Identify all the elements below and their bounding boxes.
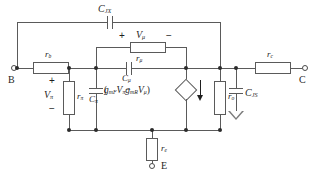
wire-bottom-rail (69, 130, 220, 131)
label-cjs: CJS (245, 88, 258, 99)
node-source-top (184, 66, 188, 70)
node-emitter-left (67, 128, 71, 132)
label-vmu: Vμ (136, 30, 145, 41)
wire-cjx-top-right (112, 22, 220, 23)
label-vpi: Vπ (44, 90, 53, 101)
wire-rc-to-c (291, 68, 302, 69)
rb-resistor (33, 62, 69, 74)
wire-cjs-top (236, 68, 237, 88)
wire-rmu-right (166, 47, 186, 48)
vmu-plus-sign: + (119, 31, 125, 41)
dependent-current-source (175, 79, 198, 102)
ground-symbol-icon (228, 111, 244, 120)
node-emitter-re (150, 128, 154, 132)
terminal-collector[interactable] (302, 65, 308, 71)
terminal-emitter[interactable] (149, 163, 155, 169)
wire-rmu-left (96, 47, 130, 48)
wire-rmu-left-riser (96, 47, 97, 68)
node-cpi-rmu (94, 66, 98, 70)
source-expression: (gmFVπ−gmRVμ) (104, 86, 147, 96)
wire-source-bottom (186, 99, 187, 130)
ro-resistor (214, 81, 226, 115)
wire-cjx-top-left (17, 22, 107, 23)
vpi-plus-sign: + (49, 76, 55, 86)
label-cpi: Cπ (89, 95, 98, 105)
node-base-terminal (15, 66, 19, 70)
label-terminal-c: C (299, 75, 306, 85)
wire-base-to-cjx-left (17, 22, 18, 68)
label-cmu: Cμ (122, 74, 131, 84)
node-collector-internal (234, 66, 238, 70)
label-rb: rb (45, 50, 51, 60)
wire-cjx-to-collector (220, 22, 221, 68)
vmu-minus-sign: − (166, 31, 172, 41)
wire-cjs-to-ground (236, 93, 237, 111)
wire-cpi-top (96, 68, 97, 88)
wire-b-terminal (17, 68, 33, 69)
wire-rmu-right-riser (186, 47, 187, 68)
node-emitter-cpi (94, 128, 98, 132)
label-rc: rc (267, 50, 273, 60)
re-resistor (146, 138, 158, 161)
vpi-minus-sign: − (49, 104, 55, 114)
rmu-resistor (130, 42, 166, 53)
label-terminal-e: E (161, 161, 167, 171)
circuit-diagram-canvas: CJX rμ + Vμ − rb Cμ rc B C rπ + Vπ − Cπ (0, 0, 309, 173)
label-cjx: CJX (98, 4, 111, 15)
current-direction-arrow-icon (197, 80, 204, 102)
node-emitter-source (184, 128, 188, 132)
rc-resistor (255, 62, 291, 74)
label-re: re (161, 144, 167, 154)
label-rpi: rπ (77, 92, 83, 102)
label-rmu: rμ (136, 54, 142, 64)
node-internal-base (67, 66, 71, 70)
rpi-resistor (63, 81, 75, 115)
label-terminal-b: B (8, 75, 15, 85)
node-ro-cjx (218, 66, 222, 70)
wire-to-rc (236, 68, 255, 69)
node-emitter-ro (218, 128, 222, 132)
